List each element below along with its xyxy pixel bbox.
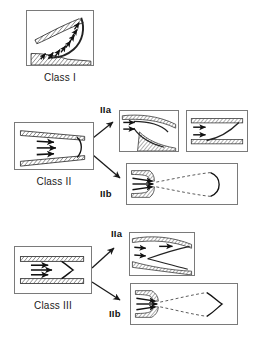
class2-IIa-panel-1 (119, 110, 179, 152)
class2-IIa-panel-2 (186, 110, 248, 152)
class1-panel (26, 10, 94, 66)
class2-IIa-label: IIa (100, 104, 111, 115)
class2-caption: Class II (14, 176, 94, 187)
figure-canvas: Class I Class II (0, 0, 260, 337)
class2-IIb-label: IIb (100, 188, 112, 199)
class2-IIb-panel (126, 163, 238, 205)
class3-IIa-label: IIa (111, 228, 122, 239)
class3-IIb-panel (130, 283, 238, 325)
class2-panel (14, 122, 94, 170)
class3-IIb-label: IIb (109, 308, 121, 319)
class3-IIa-panel (129, 232, 195, 276)
class1-caption: Class I (26, 72, 94, 83)
class3-panel (14, 246, 92, 294)
class3-caption: Class III (14, 300, 92, 311)
